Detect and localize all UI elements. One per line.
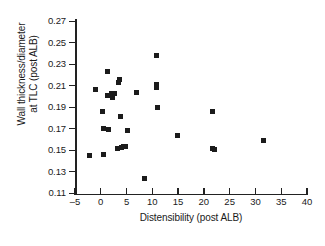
x-axis-tick-label: 0 <box>88 197 114 207</box>
data-point <box>134 90 139 95</box>
x-axis-tick <box>152 188 153 194</box>
x-axis-tick-label: 10 <box>139 197 165 207</box>
data-point <box>123 144 128 149</box>
y-axis-tick <box>69 150 75 151</box>
y-axis-tick-label: 0.13 <box>28 167 66 177</box>
x-axis-title: Distensibility (post ALB) <box>75 212 307 223</box>
data-point <box>212 147 217 152</box>
x-axis-tick-label: 30 <box>242 197 268 207</box>
data-point <box>118 114 123 119</box>
y-axis-title: Wall thickness/diameter at TLC (post ALB… <box>16 0 40 154</box>
x-axis-line <box>74 194 308 196</box>
data-point <box>117 77 122 82</box>
x-axis-tick <box>203 188 204 194</box>
x-axis-tick <box>306 188 307 194</box>
data-point <box>100 109 105 114</box>
x-axis-tick-label: 35 <box>268 197 294 207</box>
data-point <box>101 152 106 157</box>
plot-data-area <box>75 21 307 193</box>
scatter-plot-figure: 0.110.130.150.170.190.210.230.250.27 –50… <box>0 0 325 246</box>
y-axis-tick <box>69 128 75 129</box>
data-point <box>93 87 98 92</box>
y-axis-tick <box>69 85 75 86</box>
x-axis-tick-label: 15 <box>165 197 191 207</box>
data-point <box>105 69 110 74</box>
x-axis-tick-label: 25 <box>217 197 243 207</box>
y-axis-tick-label: 0.11 <box>28 188 66 198</box>
data-point <box>142 176 147 181</box>
data-point <box>261 138 266 143</box>
x-axis-tick <box>229 188 230 194</box>
x-axis-tick-label: 20 <box>191 197 217 207</box>
x-axis-tick <box>74 188 75 194</box>
data-point <box>175 133 180 138</box>
x-axis-tick <box>255 188 256 194</box>
x-axis-tick <box>281 188 282 194</box>
x-axis-tick-label: –5 <box>62 197 88 207</box>
data-point <box>125 128 130 133</box>
y-axis-tick <box>69 64 75 65</box>
data-point <box>154 85 159 90</box>
x-axis-tick-label: 5 <box>114 197 140 207</box>
data-point <box>155 105 160 110</box>
y-axis-tick <box>69 171 75 172</box>
y-axis-tick <box>69 42 75 43</box>
data-point <box>112 91 117 96</box>
y-axis-tick <box>69 21 75 22</box>
data-point <box>87 153 92 158</box>
data-point <box>154 53 159 58</box>
x-axis-tick <box>100 188 101 194</box>
x-axis-tick <box>177 188 178 194</box>
y-axis-tick <box>69 107 75 108</box>
x-axis-tick <box>126 188 127 194</box>
y-axis-title-line-2: at TLC (post ALB) <box>28 0 40 154</box>
y-axis-title-line-1: Wall thickness/diameter <box>16 0 28 154</box>
data-point <box>106 127 111 132</box>
data-point <box>210 109 215 114</box>
data-point <box>110 95 115 100</box>
x-axis-tick-label: 40 <box>294 197 320 207</box>
